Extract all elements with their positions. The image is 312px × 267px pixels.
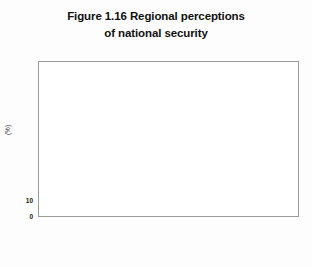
chart-title-line-1: Figure 1.16 Regional perceptions xyxy=(0,8,312,25)
plot-frame xyxy=(38,61,299,217)
bars-layer xyxy=(39,62,298,216)
chart-title-line-2: of national security xyxy=(0,25,312,42)
figure-container: Figure 1.16 Regional perceptions of nati… xyxy=(0,0,312,267)
y-axis: 010 xyxy=(8,61,36,217)
y-axis-tick-10: 10 xyxy=(26,198,33,205)
chart-title: Figure 1.16 Regional perceptions of nati… xyxy=(0,8,312,42)
y-axis-label: (%) xyxy=(4,125,11,135)
y-axis-tick-0: 0 xyxy=(29,214,33,221)
chart-area: 010 (%) xyxy=(8,52,304,260)
